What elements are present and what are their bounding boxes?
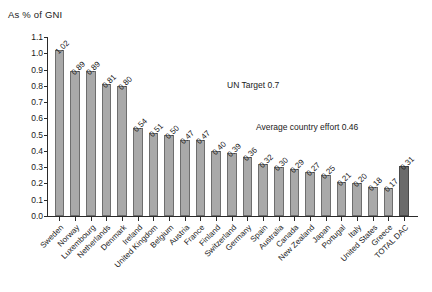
- x-axis-tick-mark: [263, 217, 264, 221]
- y-axis-tick-label: 0.9: [17, 65, 43, 75]
- bar[interactable]: [258, 164, 268, 216]
- x-axis-tick-mark: [153, 217, 154, 221]
- bar[interactable]: [70, 71, 80, 216]
- x-axis-tick-mark: [294, 217, 295, 221]
- bar[interactable]: [227, 153, 237, 216]
- y-axis-tick-label: 0.3: [17, 162, 43, 172]
- x-axis-tick-mark: [59, 217, 60, 221]
- x-axis-tick-mark: [106, 217, 107, 221]
- y-axis-tick-label: 1.1: [17, 32, 43, 42]
- bar[interactable]: [133, 128, 143, 216]
- y-axis-tick-label: 0.7: [17, 97, 43, 107]
- bar[interactable]: [164, 135, 174, 216]
- y-axis-tick-label: 0.0: [17, 211, 43, 221]
- bar[interactable]: [274, 167, 284, 216]
- x-axis-tick-mark: [341, 217, 342, 221]
- x-axis-tick-mark: [247, 217, 248, 221]
- bar[interactable]: [290, 169, 300, 216]
- x-axis-tick-mark: [279, 217, 280, 221]
- bar[interactable]: [180, 140, 190, 216]
- x-axis-tick-mark: [310, 217, 311, 221]
- x-axis-tick-mark: [200, 217, 201, 221]
- bar-value-label: 0.18: [367, 175, 384, 192]
- x-axis-tick-mark: [169, 217, 170, 221]
- y-axis-tick-label: 0.8: [17, 81, 43, 91]
- bar-value-label: 0.47: [179, 128, 196, 145]
- y-axis-tick-label: 1.0: [17, 48, 43, 58]
- bar[interactable]: [55, 50, 65, 216]
- chart-axis-title: As % of GNI: [8, 9, 62, 20]
- bar[interactable]: [117, 86, 127, 216]
- annotation-average-effort: Average country effort 0.46: [256, 122, 358, 132]
- x-axis-tick-mark: [357, 217, 358, 221]
- x-axis-tick-mark: [232, 217, 233, 221]
- bar-chart: As % of GNI 0.00.10.20.30.40.50.60.70.80…: [0, 0, 432, 292]
- bar[interactable]: [243, 157, 253, 216]
- y-axis-tick-label: 0.4: [17, 146, 43, 156]
- bar[interactable]: [196, 140, 206, 216]
- x-axis-tick-mark: [138, 217, 139, 221]
- y-axis-tick-label: 0.2: [17, 178, 43, 188]
- annotation-un-target: UN Target 0.7: [227, 80, 279, 90]
- bar[interactable]: [305, 172, 315, 216]
- y-axis-tick-label: 0.5: [17, 130, 43, 140]
- x-axis-tick-mark: [388, 217, 389, 221]
- x-axis-tick-mark: [216, 217, 217, 221]
- x-axis-tick-mark: [373, 217, 374, 221]
- bar[interactable]: [102, 84, 112, 216]
- bar[interactable]: [86, 71, 96, 216]
- x-axis-tick-mark: [122, 217, 123, 221]
- x-axis-tick-mark: [91, 217, 92, 221]
- x-axis-tick-mark: [326, 217, 327, 221]
- plot-area: 1.020.890.890.810.800.540.510.500.470.47…: [48, 37, 417, 216]
- x-axis-tick-mark: [185, 217, 186, 221]
- x-axis-tick-mark: [404, 217, 405, 221]
- y-axis-tick-label: 0.6: [17, 113, 43, 123]
- x-axis-tick-mark: [75, 217, 76, 221]
- y-axis-tick-label: 0.1: [17, 195, 43, 205]
- bar[interactable]: [211, 151, 221, 216]
- bar[interactable]: [149, 133, 159, 216]
- bar-total-dac[interactable]: [399, 166, 409, 216]
- bar-value-label: 0.47: [195, 128, 212, 145]
- bar[interactable]: [321, 175, 331, 216]
